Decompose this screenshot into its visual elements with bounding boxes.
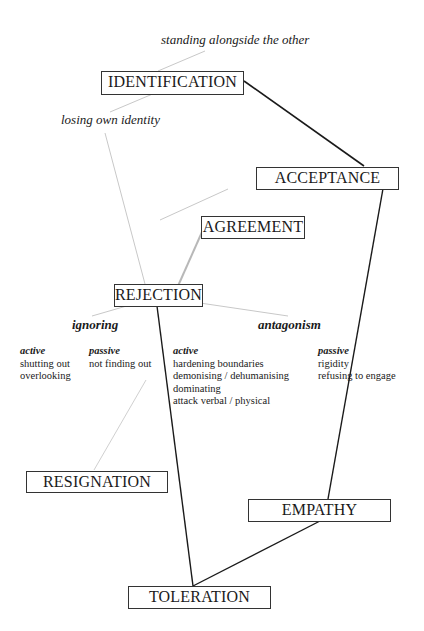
node-identification: IDENTIFICATION [101, 71, 244, 95]
line-agreement-rejection [178, 232, 202, 286]
line-identification-acceptance [244, 81, 364, 166]
line-empathy-toleration [193, 521, 320, 586]
antagonism-active-item: dominating [173, 383, 289, 396]
antagonism-active-item: demonising / dehumanising [173, 370, 289, 383]
ignoring-passive-group: passive not finding out [89, 345, 151, 370]
line-identification-losing [110, 93, 155, 112]
line-standing-identification [158, 51, 205, 71]
line-acceptance-empathy [328, 183, 384, 499]
ignoring-active-group: active shutting out overlooking [20, 345, 71, 383]
ignoring-active-item: shutting out [20, 358, 71, 371]
ignoring-active-item: overlooking [20, 370, 71, 383]
annotation-standing-alongside: standing alongside the other [161, 32, 309, 48]
antagonism-active-group: active hardening boundaries demonising /… [173, 345, 289, 408]
branch-ignoring-title: ignoring [72, 317, 118, 333]
ignoring-passive-item: not finding out [89, 358, 151, 371]
node-resignation: RESIGNATION [26, 471, 168, 493]
antagonism-active-item: attack verbal / physical [173, 395, 289, 408]
antagonism-active-item: hardening boundaries [173, 358, 289, 371]
line-passive-resignation [94, 380, 146, 470]
node-agreement: AGREEMENT [201, 216, 305, 239]
branch-antagonism-title: antagonism [258, 317, 321, 333]
line-rejection-antagonism [200, 303, 288, 316]
node-acceptance: ACCEPTANCE [256, 167, 399, 190]
node-empathy: EMPATHY [248, 499, 391, 522]
node-rejection: REJECTION [114, 284, 203, 307]
line-losing-rejection [105, 133, 145, 284]
antagonism-active-label: active [173, 345, 289, 358]
node-toleration: TOLERATION [128, 586, 271, 609]
antagonism-passive-group: passive rigidity refusing to engage [318, 345, 396, 383]
ignoring-passive-label: passive [89, 345, 151, 358]
ignoring-active-label: active [20, 345, 71, 358]
annotation-losing-identity: losing own identity [61, 112, 160, 128]
antagonism-passive-item: refusing to engage [318, 370, 396, 383]
antagonism-passive-item: rigidity [318, 358, 396, 371]
antagonism-passive-label: passive [318, 345, 396, 358]
